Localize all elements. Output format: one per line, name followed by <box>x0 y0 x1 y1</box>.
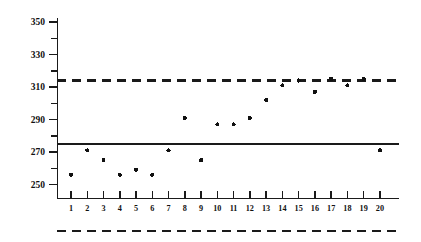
x-tick-label: 20 <box>376 204 384 213</box>
data-point <box>118 173 122 177</box>
x-tick-label: 9 <box>199 204 203 213</box>
data-point <box>264 98 268 102</box>
x-tick-label: 8 <box>183 204 187 213</box>
data-point <box>313 90 317 94</box>
data-point <box>199 158 203 162</box>
data-point <box>215 122 219 126</box>
x-tick-label: 7 <box>167 204 171 213</box>
x-tick-label: 6 <box>150 204 154 213</box>
x-tick-label: 1 <box>69 204 73 213</box>
y-tick-label: 330 <box>31 50 46 60</box>
y-tick-label: 270 <box>31 147 46 157</box>
x-tick-label: 10 <box>213 204 221 213</box>
data-point <box>101 158 105 162</box>
data-point <box>329 77 333 81</box>
reference-lines <box>57 81 399 144</box>
x-tick-label: 4 <box>118 204 122 213</box>
data-points <box>69 77 382 177</box>
y-tick-label: 350 <box>31 17 46 27</box>
x-tick-label: 16 <box>311 204 319 213</box>
data-point <box>85 148 89 152</box>
chart-container: 250270290310330350 123456789101112131415… <box>0 0 421 242</box>
y-axis-tick-labels: 250270290310330350 <box>31 17 46 190</box>
x-tick-label: 15 <box>295 204 303 213</box>
data-point <box>280 83 284 87</box>
data-point <box>134 168 138 172</box>
data-point <box>378 148 382 152</box>
x-axis-ticks <box>71 191 380 199</box>
data-point <box>69 173 73 177</box>
data-point <box>183 116 187 120</box>
data-point <box>150 173 154 177</box>
control-chart-plot: 250270290310330350 123456789101112131415… <box>0 0 421 242</box>
y-tick-label: 310 <box>31 82 46 92</box>
x-tick-label: 5 <box>134 204 138 213</box>
x-tick-label: 14 <box>278 204 286 213</box>
data-point <box>232 122 236 126</box>
data-point <box>362 77 366 81</box>
x-tick-label: 2 <box>85 204 89 213</box>
x-tick-label: 12 <box>246 204 254 213</box>
data-point <box>297 78 301 82</box>
x-tick-label: 13 <box>262 204 270 213</box>
x-axis-tick-labels: 1234567891011121314151617181920 <box>69 204 384 213</box>
x-tick-label: 3 <box>101 204 105 213</box>
x-tick-label: 18 <box>343 204 351 213</box>
y-axis-ticks <box>49 22 58 185</box>
y-tick-label: 290 <box>31 115 46 125</box>
x-tick-label: 11 <box>230 204 238 213</box>
x-tick-label: 17 <box>327 204 335 213</box>
data-point <box>166 148 170 152</box>
data-point <box>248 116 252 120</box>
x-tick-label: 19 <box>360 204 368 213</box>
data-point <box>345 83 349 87</box>
y-tick-label: 250 <box>31 180 46 190</box>
